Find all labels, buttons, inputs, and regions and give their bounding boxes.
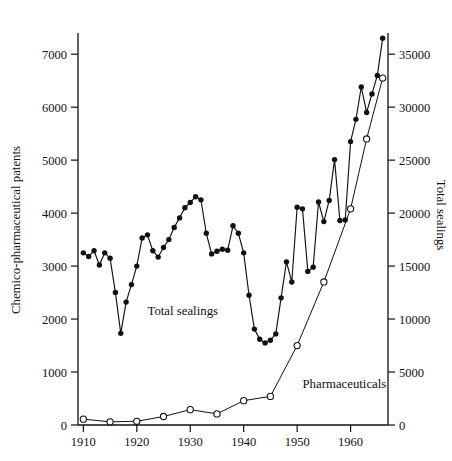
- data-point-pharmaceuticals: [321, 279, 327, 285]
- data-point-total-sealings: [230, 223, 235, 228]
- data-point-total-sealings: [310, 264, 315, 269]
- x-tick-label: 1930: [178, 435, 203, 449]
- data-point-total-sealings: [118, 331, 123, 336]
- data-point-total-sealings: [284, 259, 289, 264]
- left-tick-label: 2000: [42, 313, 67, 327]
- right-tick-label: 25000: [399, 154, 430, 168]
- data-point-total-sealings: [166, 237, 171, 242]
- data-point-total-sealings: [97, 262, 102, 267]
- bottom-axis-ticks: 191019201930194019501960: [71, 425, 363, 449]
- data-point-pharmaceuticals: [214, 411, 220, 417]
- data-point-pharmaceuticals: [267, 393, 273, 399]
- data-point-total-sealings: [198, 197, 203, 202]
- pharmaceuticals-markers: [80, 75, 386, 425]
- total-sealings-line: [83, 38, 382, 343]
- right-axis-ticks: 05000100001500020000250003000035000: [388, 48, 430, 433]
- data-point-total-sealings: [150, 248, 155, 253]
- right-tick-label: 30000: [399, 101, 430, 115]
- data-point-total-sealings: [188, 200, 193, 205]
- left-tick-label: 4000: [42, 207, 67, 221]
- data-point-total-sealings: [337, 218, 342, 223]
- data-point-pharmaceuticals: [80, 416, 86, 422]
- data-point-total-sealings: [134, 263, 139, 268]
- data-point-total-sealings: [369, 91, 374, 96]
- data-point-total-sealings: [204, 231, 209, 236]
- data-point-total-sealings: [343, 217, 348, 222]
- data-point-total-sealings: [321, 219, 326, 224]
- data-point-total-sealings: [252, 326, 257, 331]
- data-point-total-sealings: [300, 206, 305, 211]
- data-point-total-sealings: [139, 235, 144, 240]
- data-point-total-sealings: [209, 251, 214, 256]
- pharmaceuticals-line: [83, 78, 382, 422]
- data-point-total-sealings: [113, 290, 118, 295]
- chart-figure: 01000200030004000500060007000 0500010000…: [0, 0, 452, 461]
- right-tick-label: 0: [399, 419, 405, 433]
- data-point-total-sealings: [289, 279, 294, 284]
- data-point-total-sealings: [262, 340, 267, 345]
- data-point-total-sealings: [145, 232, 150, 237]
- data-point-total-sealings: [278, 295, 283, 300]
- x-tick-label: 1920: [124, 435, 149, 449]
- data-point-total-sealings: [332, 157, 337, 162]
- data-point-total-sealings: [91, 248, 96, 253]
- data-point-total-sealings: [107, 255, 112, 260]
- left-tick-label: 5000: [42, 154, 67, 168]
- data-point-total-sealings: [214, 249, 219, 254]
- right-tick-label: 35000: [399, 48, 430, 62]
- series-annotation-label: Pharmaceuticals: [302, 377, 386, 391]
- data-point-total-sealings: [316, 199, 321, 204]
- data-point-total-sealings: [193, 194, 198, 199]
- data-point-total-sealings: [241, 250, 246, 255]
- left-tick-label: 0: [61, 419, 67, 433]
- data-point-total-sealings: [172, 225, 177, 230]
- total-sealings-markers: [81, 36, 386, 346]
- data-point-total-sealings: [177, 215, 182, 220]
- x-tick-label: 1940: [231, 435, 256, 449]
- data-point-total-sealings: [161, 245, 166, 250]
- data-point-total-sealings: [273, 331, 278, 336]
- data-point-pharmaceuticals: [380, 75, 386, 81]
- data-point-total-sealings: [81, 250, 86, 255]
- right-tick-label: 5000: [399, 366, 424, 380]
- left-axis: 01000200030004000500060007000: [42, 33, 78, 433]
- data-point-total-sealings: [102, 250, 107, 255]
- right-axis: 05000100001500020000250003000035000: [388, 33, 430, 433]
- series-annotations: Total sealingsPharmaceuticals: [147, 304, 386, 392]
- data-point-total-sealings: [220, 246, 225, 251]
- data-point-total-sealings: [257, 336, 262, 341]
- data-point-total-sealings: [182, 205, 187, 210]
- right-tick-label: 10000: [399, 313, 430, 327]
- series-annotation-label: Total sealings: [147, 304, 218, 318]
- data-point-total-sealings: [364, 110, 369, 115]
- data-point-total-sealings: [155, 254, 160, 259]
- right-tick-label: 20000: [399, 207, 430, 221]
- data-point-pharmaceuticals: [134, 418, 140, 424]
- bottom-axis: 191019201930194019501960: [71, 425, 388, 449]
- data-point-total-sealings: [236, 231, 241, 236]
- left-tick-label: 1000: [42, 366, 67, 380]
- data-point-total-sealings: [327, 198, 332, 203]
- left-axis-ticks: 01000200030004000500060007000: [42, 48, 78, 433]
- data-point-pharmaceuticals: [294, 342, 300, 348]
- data-point-total-sealings: [86, 254, 91, 259]
- data-point-total-sealings: [268, 338, 273, 343]
- data-point-total-sealings: [225, 247, 230, 252]
- data-point-total-sealings: [129, 282, 134, 287]
- x-tick-label: 1910: [71, 435, 96, 449]
- left-tick-label: 3000: [42, 260, 67, 274]
- data-point-pharmaceuticals: [107, 419, 113, 425]
- y-axis-title: Chemico-pharmaceutical patents: [9, 146, 23, 314]
- data-point-total-sealings: [294, 205, 299, 210]
- data-point-pharmaceuticals: [241, 398, 247, 404]
- left-tick-label: 7000: [42, 48, 67, 62]
- data-point-total-sealings: [353, 117, 358, 122]
- data-point-total-sealings: [380, 36, 385, 41]
- line-chart-svg: 01000200030004000500060007000 0500010000…: [0, 0, 452, 461]
- x-tick-label: 1960: [338, 435, 363, 449]
- data-point-total-sealings: [305, 269, 310, 274]
- data-point-total-sealings: [359, 84, 364, 89]
- data-point-pharmaceuticals: [187, 407, 193, 413]
- data-point-pharmaceuticals: [160, 413, 166, 419]
- y2-axis-title: Total sealings: [434, 180, 448, 251]
